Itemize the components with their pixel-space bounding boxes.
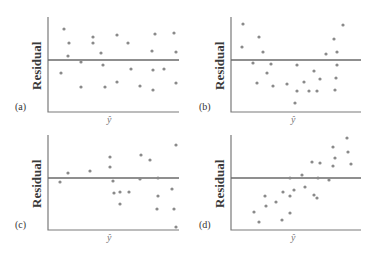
data-point (108, 165, 111, 168)
panel-b-ylabel: Residual (212, 42, 228, 90)
data-point (315, 196, 318, 199)
data-point (302, 80, 305, 83)
data-point (91, 41, 94, 44)
panel-a-label: (a) (15, 101, 26, 112)
data-point (333, 156, 336, 159)
data-point (91, 35, 94, 38)
data-point (108, 155, 111, 158)
data-point (67, 41, 70, 44)
data-point (148, 158, 151, 161)
data-point (263, 194, 266, 197)
data-point (280, 218, 283, 221)
data-point (265, 71, 268, 74)
panel-a-ylabel: Residual (29, 42, 45, 90)
data-point (156, 194, 159, 197)
panel-c-xlabel: ŷ (107, 232, 111, 243)
data-point (331, 145, 334, 148)
data-point (264, 204, 267, 207)
data-point (332, 37, 335, 40)
data-point (312, 69, 315, 72)
data-point (324, 52, 327, 55)
data-point (241, 22, 244, 25)
data-point (331, 164, 334, 167)
data-point (335, 50, 338, 53)
data-point (153, 32, 156, 35)
panel-c-label: (c) (15, 219, 26, 230)
data-point (346, 150, 349, 153)
data-point (79, 85, 82, 88)
data-point (327, 178, 330, 181)
data-point (341, 23, 344, 26)
panel-c-ylabel: Residual (29, 160, 45, 208)
data-point (257, 220, 260, 223)
data-point (334, 76, 337, 79)
data-point (335, 63, 338, 66)
data-point (251, 61, 254, 64)
data-point (59, 71, 62, 74)
panel-b (231, 17, 361, 112)
panel-c (48, 135, 179, 230)
data-point (240, 45, 243, 48)
data-point (174, 143, 177, 146)
data-point (156, 176, 159, 179)
panel-d-ylabel: Residual (212, 160, 228, 208)
data-point (62, 27, 65, 30)
panel-a (48, 17, 179, 112)
data-point (257, 35, 260, 38)
panel-d-label: (d) (199, 219, 211, 230)
data-point (172, 207, 175, 210)
data-point (174, 225, 177, 228)
data-point (293, 101, 296, 104)
data-point (115, 33, 118, 36)
data-point (139, 153, 142, 156)
data-point (285, 82, 288, 85)
data-point (349, 162, 352, 165)
axes (48, 17, 179, 112)
data-point (288, 176, 291, 179)
data-point (151, 88, 154, 91)
data-point (274, 200, 277, 203)
data-point (312, 193, 315, 196)
data-point (66, 171, 69, 174)
data-point (151, 68, 154, 71)
data-point (252, 210, 255, 213)
data-point (172, 31, 175, 34)
data-point (129, 67, 132, 70)
data-point (261, 50, 264, 53)
data-point (316, 176, 319, 179)
data-point (127, 190, 130, 193)
panel-b-xlabel: ŷ (291, 114, 295, 125)
data-point (118, 190, 121, 193)
data-point (318, 161, 321, 164)
data-point (255, 81, 258, 84)
data-point (271, 84, 274, 87)
data-point (174, 81, 177, 84)
data-point (79, 60, 82, 63)
panel-a-xlabel: ŷ (107, 114, 111, 125)
data-point (295, 89, 298, 92)
data-point (288, 194, 291, 197)
data-point (155, 207, 158, 210)
data-point (345, 136, 348, 139)
data-point (303, 185, 306, 188)
data-point (115, 80, 118, 83)
data-point (307, 89, 310, 92)
data-point (101, 63, 104, 66)
data-point (118, 202, 121, 205)
data-point (66, 54, 69, 57)
data-point (138, 177, 141, 180)
data-point (126, 41, 129, 44)
data-point (138, 84, 141, 87)
data-point (300, 173, 303, 176)
data-point (281, 190, 284, 193)
data-point (295, 63, 298, 66)
data-point (58, 180, 61, 183)
data-point (162, 67, 165, 70)
data-point (174, 50, 177, 53)
data-point (111, 179, 114, 182)
data-point (112, 191, 115, 194)
axes (231, 135, 361, 230)
data-point (333, 88, 336, 91)
data-point (315, 89, 318, 92)
data-point (103, 85, 106, 88)
